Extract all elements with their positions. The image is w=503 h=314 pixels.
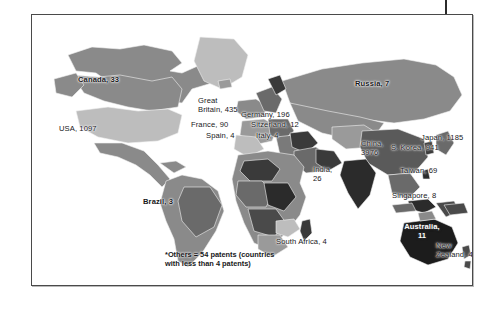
map-label-japan: Japan, 1185 <box>421 134 463 143</box>
map-figure-frame: Canada, 33 USA, 1097 Brazil, 3 Great Bri… <box>31 14 473 286</box>
map-label-germany: Germany, 196 <box>241 111 290 120</box>
map-label-italy: Italy, 4 <box>256 132 279 141</box>
map-label-new-zealand: New Zealand, 4 <box>436 242 473 259</box>
map-label-australia: Australia, 11 <box>398 223 446 240</box>
footnote-others-line2: with less than 4 patents) <box>165 259 251 268</box>
map-label-great-britain: Great Britain, 435 <box>198 97 238 114</box>
map-label-china: China, 3976 <box>361 140 384 157</box>
map-label-singapore: Singapore, 8 <box>392 192 436 201</box>
map-label-brazil: Brazil, 3 <box>143 198 173 207</box>
map-label-france: France, 90 <box>191 121 228 130</box>
map-label-spain: Spain, 4 <box>206 132 235 141</box>
map-label-russia: Russia, 7 <box>355 80 389 89</box>
map-label-south-africa: South Africa, 4 <box>276 238 327 247</box>
scan-artifact-tick <box>445 0 447 14</box>
map-label-taiwan: Taiwan, 69 <box>400 167 437 176</box>
map-label-sitzerland: Sitzerland, 12 <box>251 121 299 130</box>
footnote-others-line1: *Others = 54 patents (countries <box>165 250 274 259</box>
map-label-canada: Canada, 33 <box>78 76 119 85</box>
map-label-india: India, 26 <box>313 166 332 183</box>
map-label-s-korea: S. Korea, 941 <box>391 144 439 153</box>
map-label-usa: USA, 1097 <box>59 125 97 134</box>
